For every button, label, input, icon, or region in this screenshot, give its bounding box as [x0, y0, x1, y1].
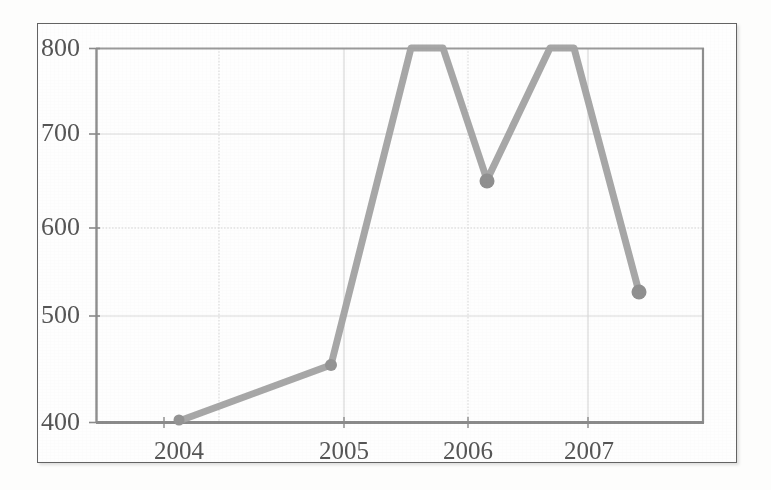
data-point-2007 — [632, 285, 647, 300]
horizontal-gridlines — [96, 134, 703, 316]
y-axis-label-600: 600 — [22, 214, 80, 240]
chart-plot-area — [38, 24, 738, 464]
vertical-gridlines — [219, 48, 588, 423]
y-axis-label-700: 700 — [22, 120, 80, 146]
y-axis-label-800: 800 — [22, 35, 80, 61]
data-point-2006 — [480, 174, 495, 189]
y-axis-label-400: 400 — [22, 409, 80, 435]
y-axis-label-500: 500 — [22, 302, 80, 328]
x-axis-label-2004: 2004 — [134, 438, 224, 463]
chart-outer-frame: 800 700 600 500 400 2004 2005 2006 2007 — [37, 23, 737, 463]
x-axis-label-2005: 2005 — [299, 438, 389, 463]
y-tick-marks — [89, 49, 100, 423]
data-series-line — [179, 48, 639, 421]
x-axis-label-2006: 2006 — [423, 438, 513, 463]
data-point-markers — [174, 174, 647, 426]
data-point-2005 — [325, 359, 337, 371]
data-point-2004 — [174, 415, 185, 426]
x-axis-label-2007: 2007 — [544, 438, 634, 463]
series-polyline — [179, 48, 639, 421]
line-chart-figure: 800 700 600 500 400 2004 2005 2006 2007 — [0, 0, 771, 490]
